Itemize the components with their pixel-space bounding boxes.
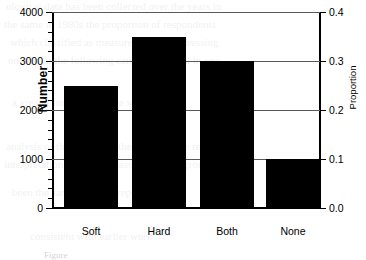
figure-caption: Figure bbox=[44, 250, 68, 260]
tick-left-1000 bbox=[46, 159, 52, 160]
x-tick-label-none: None bbox=[266, 225, 320, 237]
y-tick-label-4000: 4000 bbox=[20, 6, 43, 18]
y2-tick-label-0p4: 0.4 bbox=[329, 6, 344, 18]
plot-area: 4000 3000 2000 1000 0 0.4 0.3 0.2 0.1 0.… bbox=[52, 12, 320, 208]
tick-right-0p2 bbox=[320, 110, 326, 111]
tick-left-4000 bbox=[46, 12, 52, 13]
y2-tick-label-0p2: 0.2 bbox=[329, 104, 344, 116]
minor-tick-left bbox=[48, 120, 52, 121]
minor-tick-left bbox=[48, 71, 52, 72]
tick-left-3000 bbox=[46, 61, 52, 62]
x-tick-label-both: Both bbox=[200, 225, 254, 237]
y-tick-label-1000: 1000 bbox=[20, 153, 43, 165]
gridline-4000 bbox=[52, 12, 320, 13]
minor-tick-left bbox=[48, 149, 52, 150]
y2-tick-label-0p0: 0.0 bbox=[329, 202, 344, 214]
minor-tick-left bbox=[48, 22, 52, 23]
bar-both[interactable] bbox=[200, 61, 254, 208]
minor-tick-left bbox=[48, 169, 52, 170]
minor-tick-left bbox=[48, 100, 52, 101]
x-tick-label-soft: Soft bbox=[64, 225, 118, 237]
y2-tick-label-0p1: 0.1 bbox=[329, 153, 344, 165]
minor-tick-left bbox=[48, 32, 52, 33]
bar-hard[interactable] bbox=[132, 37, 186, 209]
tick-right-0p3 bbox=[320, 61, 326, 62]
minor-tick-left bbox=[48, 198, 52, 199]
tick-right-0p0 bbox=[320, 208, 326, 209]
minor-tick-left bbox=[48, 188, 52, 189]
bar-none[interactable] bbox=[266, 159, 320, 208]
minor-tick-left bbox=[48, 130, 52, 131]
tick-right-0p4 bbox=[320, 12, 326, 13]
y-axis-title-right: Proportion bbox=[347, 43, 358, 133]
tick-right-0p1 bbox=[320, 159, 326, 160]
minor-tick-left bbox=[48, 81, 52, 82]
minor-tick-left bbox=[48, 51, 52, 52]
minor-tick-left bbox=[48, 90, 52, 91]
x-tick-label-hard: Hard bbox=[132, 225, 186, 237]
y-tick-label-3000: 3000 bbox=[20, 55, 43, 67]
y2-tick-label-0p3: 0.3 bbox=[329, 55, 344, 67]
tick-left-2000 bbox=[46, 110, 52, 111]
minor-tick-left bbox=[48, 179, 52, 180]
gridline-3000 bbox=[52, 61, 320, 62]
minor-tick-left bbox=[48, 41, 52, 42]
y-tick-label-2000: 2000 bbox=[20, 104, 43, 116]
minor-tick-left bbox=[48, 139, 52, 140]
y-tick-label-0: 0 bbox=[37, 202, 43, 214]
bar-soft[interactable] bbox=[64, 86, 118, 209]
tick-left-0 bbox=[46, 208, 52, 209]
